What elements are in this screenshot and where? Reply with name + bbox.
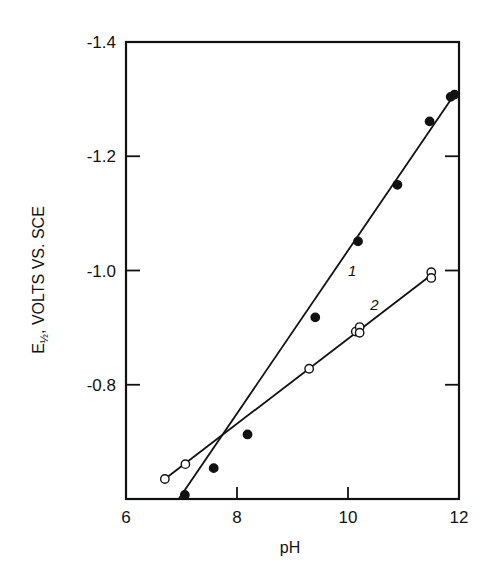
x-tick-label: 6 xyxy=(121,508,130,527)
y-tick-label: -1.4 xyxy=(87,33,116,52)
y-axis-title-main: E xyxy=(30,343,47,354)
fit-lines xyxy=(165,92,456,499)
x-tick-label: 10 xyxy=(339,508,358,527)
y-axis-title-subscript: ½ xyxy=(38,334,50,343)
axis-ticks: 681012-0.8-1.0-1.2-1.4 xyxy=(87,33,469,527)
y-tick-label: -0.8 xyxy=(87,376,116,395)
y-tick-label: -1.0 xyxy=(87,262,116,281)
data-point-series-1 xyxy=(243,430,251,438)
data-point-series-1 xyxy=(311,313,319,321)
data-points xyxy=(161,90,459,499)
curve-label-2: 2 xyxy=(369,296,379,313)
data-point-series-1 xyxy=(354,237,362,245)
x-tick-label: 8 xyxy=(232,508,241,527)
plot-frame xyxy=(126,42,459,499)
curve-label-1: 1 xyxy=(348,262,356,279)
data-point-series-2 xyxy=(161,475,169,483)
data-point-series-1 xyxy=(181,491,189,499)
x-tick-label: 12 xyxy=(450,508,469,527)
y-tick-label: -1.2 xyxy=(87,147,116,166)
data-point-series-1 xyxy=(450,90,458,98)
data-point-series-1 xyxy=(393,181,401,189)
fit-line-1 xyxy=(179,92,457,499)
data-point-series-1 xyxy=(209,464,217,472)
plot-border xyxy=(126,42,459,499)
data-point-series-2 xyxy=(181,460,189,468)
curve-labels: 12 xyxy=(348,262,379,313)
chart: 681012-0.8-1.0-1.2-1.4 12 pH E½, VOLTS V… xyxy=(0,0,489,579)
y-axis-title: E½, VOLTS VS. SCE xyxy=(30,206,50,354)
fit-line-2 xyxy=(165,275,431,479)
x-axis-title: pH xyxy=(280,539,300,556)
data-point-series-1 xyxy=(425,117,433,125)
svg-text:E½, VOLTS VS. SCE: E½, VOLTS VS. SCE xyxy=(30,206,50,354)
data-point-series-2 xyxy=(305,365,313,373)
data-point-series-2 xyxy=(427,274,435,282)
y-axis-title-rest: , VOLTS VS. SCE xyxy=(30,206,47,334)
data-point-series-2 xyxy=(355,329,363,337)
